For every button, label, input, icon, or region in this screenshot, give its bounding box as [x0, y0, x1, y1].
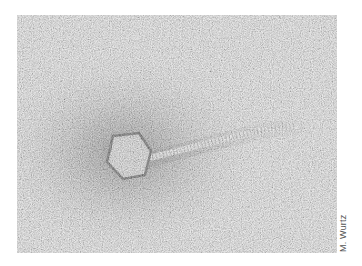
micrograph-image	[17, 15, 337, 253]
phage-micrograph	[17, 15, 337, 253]
photo-credit: M. Wurtz	[338, 215, 348, 252]
